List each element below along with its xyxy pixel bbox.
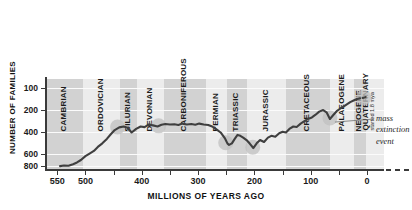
annotation-line-2: extinction [376,124,410,135]
diversity-curve [60,99,357,166]
diversity-curve-svg [0,0,412,210]
annotation-line-3: event [376,136,410,147]
annotation-leader-line [335,119,374,122]
geological-diversity-chart: LIFE EVER ONWARDS CAMBRIANORDOVICIANSILU… [0,0,412,210]
annotation-line-1: mass [376,113,410,124]
mass-extinction-annotation: mass extinction event [376,113,410,147]
